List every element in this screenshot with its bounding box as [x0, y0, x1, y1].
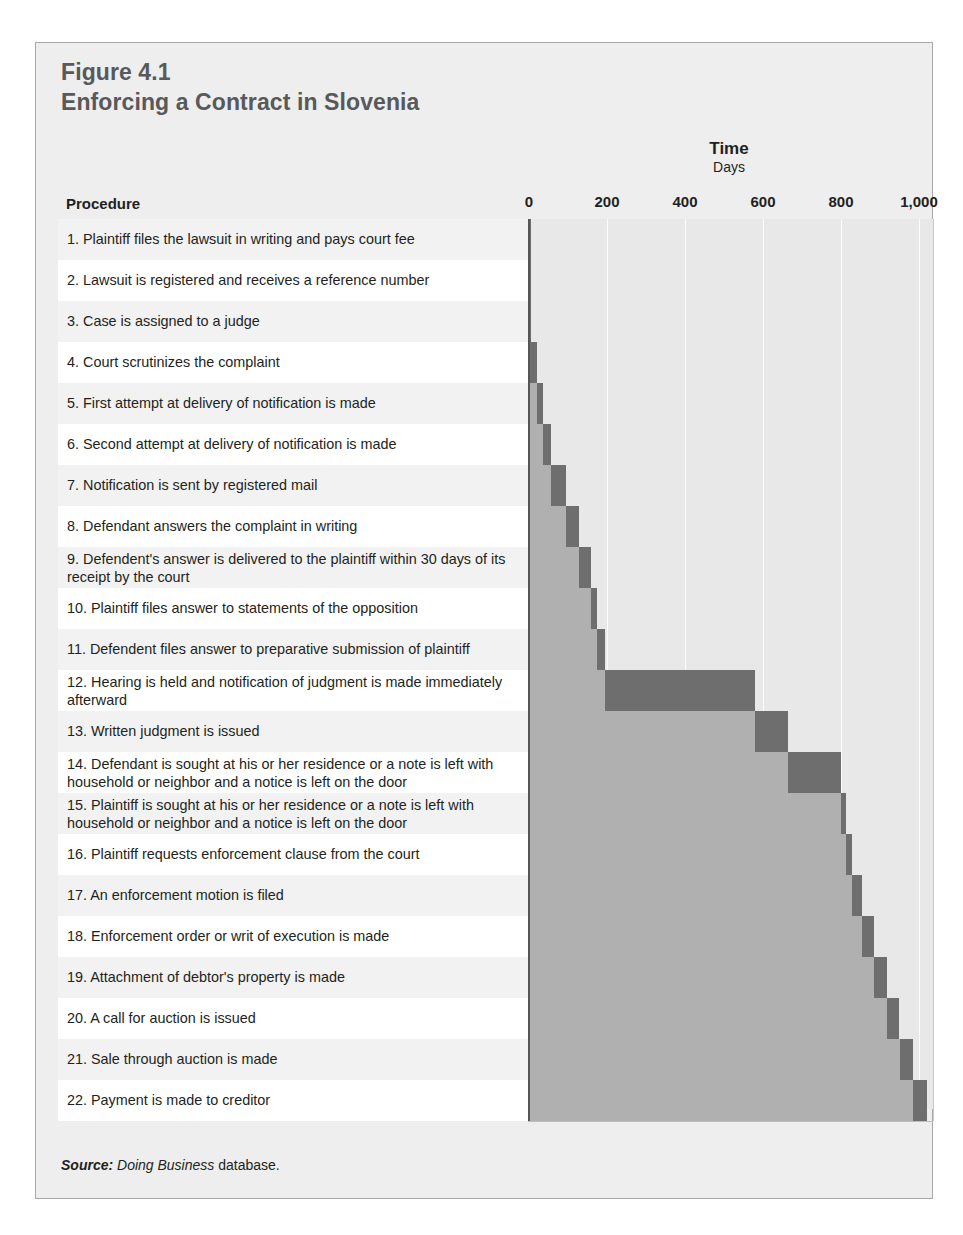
bar-active[interactable] [537, 383, 544, 424]
bar-elapsed [529, 916, 862, 957]
procedure-label: 12. Hearing is held and notification of … [67, 673, 525, 709]
x-tick-0: 0 [525, 193, 533, 210]
source-name: Doing Business [117, 1157, 214, 1173]
bar-active[interactable] [862, 916, 874, 957]
x-tick-1000: 1,000 [900, 193, 938, 210]
bar-active[interactable] [887, 998, 900, 1039]
x-axis-tick-labels: 02004006008001,000 [36, 193, 932, 213]
gantt-row[interactable]: 15. Plaintiff is sought at his or her re… [36, 793, 934, 834]
gantt-rows: 1. Plaintiff files the lawsuit in writin… [36, 219, 934, 1121]
source-note: Source: Doing Business database. [61, 1157, 280, 1173]
bar-active[interactable] [900, 1039, 914, 1080]
bar-elapsed [529, 793, 841, 834]
bar-elapsed [529, 547, 579, 588]
gantt-row[interactable]: 20. A call for auction is issued [36, 998, 934, 1039]
page-title: Enforcing a Contract in Slovenia [61, 87, 761, 117]
procedure-label: 17. An enforcement motion is filed [67, 886, 525, 905]
procedure-label: 7. Notification is sent by registered ma… [67, 476, 525, 495]
procedure-label: 11. Defendent files answer to preparativ… [67, 640, 525, 659]
gantt-row[interactable]: 16. Plaintiff requests enforcement claus… [36, 834, 934, 875]
procedure-label: 9. Defendent's answer is delivered to th… [67, 550, 525, 586]
bar-active[interactable] [551, 465, 566, 506]
gantt-row[interactable]: 13. Written judgment is issued [36, 711, 934, 752]
x-tick-800: 800 [828, 193, 853, 210]
bar-elapsed [529, 1039, 900, 1080]
gantt-chart: 1. Plaintiff files the lawsuit in writin… [36, 219, 934, 1109]
axis-title-time: Time [529, 139, 929, 159]
bar-active[interactable] [530, 342, 537, 383]
bar-active[interactable] [566, 506, 579, 547]
procedure-label: 14. Defendant is sought at his or her re… [67, 755, 525, 791]
procedure-label: 20. A call for auction is issued [67, 1009, 525, 1028]
bar-elapsed [529, 875, 852, 916]
bar-active[interactable] [591, 588, 597, 629]
gantt-row[interactable]: 11. Defendent files answer to preparativ… [36, 629, 934, 670]
gantt-row[interactable]: 14. Defendant is sought at his or her re… [36, 752, 934, 793]
gantt-row[interactable]: 17. An enforcement motion is filed [36, 875, 934, 916]
time-axis-header: Time Days [529, 139, 929, 176]
bar-elapsed [529, 424, 543, 465]
plot-right-edge [933, 219, 934, 1121]
gantt-row[interactable]: 5. First attempt at delivery of notifica… [36, 383, 934, 424]
gantt-row[interactable]: 8. Defendant answers the complaint in wr… [36, 506, 934, 547]
procedure-label: 5. First attempt at delivery of notifica… [67, 394, 525, 413]
bar-active[interactable] [913, 1080, 927, 1121]
bar-active[interactable] [543, 424, 551, 465]
bar-elapsed [529, 1080, 913, 1121]
gantt-row[interactable]: 1. Plaintiff files the lawsuit in writin… [36, 219, 934, 260]
gantt-row[interactable]: 21. Sale through auction is made [36, 1039, 934, 1080]
gantt-row[interactable]: 10. Plaintiff files answer to statements… [36, 588, 934, 629]
figure-panel: Figure 4.1 Enforcing a Contract in Slove… [35, 42, 933, 1199]
procedure-label: 13. Written judgment is issued [67, 722, 525, 741]
bar-elapsed [529, 998, 887, 1039]
bar-active[interactable] [597, 629, 605, 670]
bar-elapsed [529, 752, 788, 793]
procedure-label: 1. Plaintiff files the lawsuit in writin… [67, 230, 525, 249]
bar-active[interactable] [579, 547, 591, 588]
source-prefix: Source: [61, 1157, 113, 1173]
bar-active[interactable] [788, 752, 841, 793]
axis-zero-line [528, 219, 530, 1121]
bar-elapsed [529, 465, 551, 506]
x-tick-600: 600 [750, 193, 775, 210]
bar-active[interactable] [755, 711, 788, 752]
gantt-row[interactable]: 9. Defendent's answer is delivered to th… [36, 547, 934, 588]
bar-active[interactable] [852, 875, 863, 916]
bar-active[interactable] [605, 670, 755, 711]
gantt-row[interactable]: 12. Hearing is held and notification of … [36, 670, 934, 711]
bar-elapsed [529, 834, 846, 875]
bar-elapsed [529, 383, 537, 424]
bar-elapsed [529, 711, 755, 752]
gantt-row[interactable]: 7. Notification is sent by registered ma… [36, 465, 934, 506]
bar-elapsed [529, 588, 591, 629]
gantt-row[interactable]: 22. Payment is made to creditor [36, 1080, 934, 1121]
bar-active[interactable] [874, 957, 886, 998]
gantt-row[interactable]: 4. Court scrutinizes the complaint [36, 342, 934, 383]
bar-elapsed [529, 957, 874, 998]
gantt-row[interactable]: 2. Lawsuit is registered and receives a … [36, 260, 934, 301]
bar-elapsed [529, 629, 597, 670]
source-suffix: database. [218, 1157, 280, 1173]
figure-title-block: Figure 4.1 Enforcing a Contract in Slove… [61, 57, 761, 117]
plot-bottom-edge [528, 1121, 933, 1122]
gantt-row[interactable]: 19. Attachment of debtor's property is m… [36, 957, 934, 998]
procedure-label: 19. Attachment of debtor's property is m… [67, 968, 525, 987]
axis-units-days: Days [529, 159, 929, 176]
procedure-label: 21. Sale through auction is made [67, 1050, 525, 1069]
procedure-label: 4. Court scrutinizes the complaint [67, 353, 525, 372]
procedure-label: 10. Plaintiff files answer to statements… [67, 599, 525, 618]
x-tick-200: 200 [594, 193, 619, 210]
bar-active[interactable] [846, 834, 852, 875]
procedure-label: 6. Second attempt at delivery of notific… [67, 435, 525, 454]
procedure-label: 3. Case is assigned to a judge [67, 312, 525, 331]
procedure-label: 22. Payment is made to creditor [67, 1091, 525, 1110]
gantt-row[interactable]: 18. Enforcement order or writ of executi… [36, 916, 934, 957]
gantt-row[interactable]: 3. Case is assigned to a judge [36, 301, 934, 342]
procedure-label: 15. Plaintiff is sought at his or her re… [67, 796, 525, 832]
procedure-label: 18. Enforcement order or writ of executi… [67, 927, 525, 946]
procedure-label: 16. Plaintiff requests enforcement claus… [67, 845, 525, 864]
bar-active[interactable] [841, 793, 846, 834]
x-tick-400: 400 [672, 193, 697, 210]
gantt-row[interactable]: 6. Second attempt at delivery of notific… [36, 424, 934, 465]
bar-elapsed [529, 506, 566, 547]
